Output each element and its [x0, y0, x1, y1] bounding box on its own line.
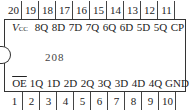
pin-10: 10: [159, 92, 176, 110]
label-3d: 3D: [113, 77, 130, 89]
pin-13: 13: [124, 1, 141, 19]
label-7q: 7Q: [84, 21, 101, 33]
pin-15: 15: [90, 1, 107, 19]
label-cp: CP: [169, 21, 186, 33]
pin-17: 17: [56, 1, 73, 19]
pin-4: 4: [57, 92, 74, 110]
label-6d: 6D: [118, 21, 135, 33]
top-pin-labels: VCC 8Q 8D 7D 7Q 6Q 6D 5D 5Q CP: [7, 21, 186, 33]
label-gnd: GND: [164, 77, 190, 89]
label-3q: 3Q: [96, 77, 113, 89]
label-8q: 8Q: [33, 21, 50, 33]
label-4q: 4Q: [147, 77, 164, 89]
label-8d: 8D: [50, 21, 67, 33]
pin-2: 2: [23, 92, 40, 110]
pin-16: 16: [73, 1, 90, 19]
label-vcc: VCC: [7, 21, 33, 33]
label-7d: 7D: [67, 21, 84, 33]
pin-18: 18: [39, 1, 56, 19]
bottom-pin-numbers: 1 2 3 4 5 6 7 8 9 10: [6, 92, 176, 110]
top-pin-numbers: 20 19 18 17 16 15 14 13 12 11: [5, 1, 175, 19]
pin-9: 9: [142, 92, 159, 110]
pin-7: 7: [108, 92, 125, 110]
label-2q: 2Q: [79, 77, 96, 89]
label-4d: 4D: [130, 77, 147, 89]
pin-1: 1: [6, 92, 23, 110]
chip-body: VCC 8Q 8D 7D 7Q 6Q 6D 5D 5Q CP 208 OE 1Q…: [4, 19, 186, 92]
pin-6: 6: [91, 92, 108, 110]
label-5q: 5Q: [152, 21, 169, 33]
label-2d: 2D: [62, 77, 79, 89]
label-6q: 6Q: [101, 21, 118, 33]
label-1q: 1Q: [28, 77, 45, 89]
label-oe: OE: [11, 77, 28, 89]
pin-11: 11: [158, 1, 175, 19]
pin-5: 5: [74, 92, 91, 110]
part-number: 208: [45, 51, 65, 63]
label-5d: 5D: [135, 21, 152, 33]
label-1d: 1D: [45, 77, 62, 89]
bottom-pin-labels: OE 1Q 1D 2D 2Q 3Q 3D 4D 4Q GND: [11, 77, 190, 89]
pin-14: 14: [107, 1, 124, 19]
pin-20: 20: [5, 1, 22, 19]
pin-8: 8: [125, 92, 142, 110]
pin-3: 3: [40, 92, 57, 110]
orientation-notch: [0, 46, 11, 64]
pin-12: 12: [141, 1, 158, 19]
pin-19: 19: [22, 1, 39, 19]
